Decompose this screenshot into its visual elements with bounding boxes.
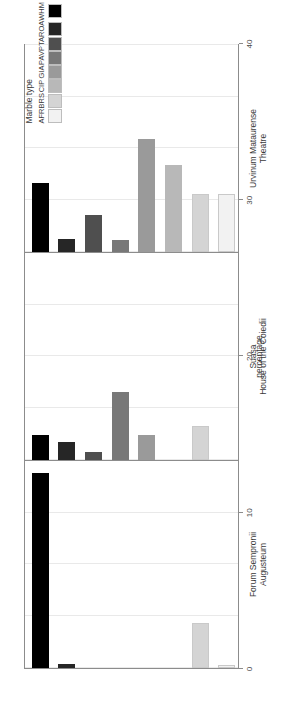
- legend-swatch: [48, 94, 62, 108]
- bar: [58, 239, 75, 252]
- bar: [192, 426, 209, 460]
- legend-item-label: BRS: [37, 93, 46, 108]
- legend-item-label: AFR: [37, 108, 46, 123]
- bar: [85, 452, 102, 460]
- legend-item-label: PTA: [37, 37, 46, 51]
- legend-item[interactable]: WHM: [37, 2, 62, 21]
- x-axis: 010203040: [239, 44, 240, 669]
- axis-title: percentage: [254, 44, 264, 669]
- bar: [85, 215, 102, 252]
- axis-tick: [239, 356, 243, 357]
- legend-swatch: [48, 51, 62, 65]
- facet-panel: SuasaHouse of the Coiedii: [24, 253, 239, 461]
- axis-tick: [239, 199, 243, 200]
- legend-swatch: [48, 37, 62, 51]
- legend: Marble type AFRBRSCIPGIAPAVPTAROAWHM: [24, 2, 62, 123]
- legend-swatch: [48, 109, 62, 123]
- bar: [138, 139, 155, 252]
- bar: [192, 624, 209, 669]
- axis-tick: [239, 43, 243, 44]
- legend-swatch: [48, 4, 62, 18]
- legend-item-label: PAV: [37, 51, 46, 65]
- axis-tick: [239, 512, 243, 513]
- legend-item[interactable]: PAV: [37, 51, 62, 65]
- bar-group: [25, 461, 238, 668]
- legend-item[interactable]: ROA: [37, 21, 62, 37]
- bar: [58, 664, 75, 668]
- axis-tick-label: 0: [245, 667, 254, 671]
- bar: [192, 194, 209, 252]
- bar: [32, 435, 49, 460]
- bar: [112, 392, 129, 460]
- plot-area: Forum SemproniiAugusteumSuasaHouse of th…: [24, 44, 239, 669]
- legend-swatch: [48, 79, 62, 93]
- axis-tick: [239, 668, 243, 669]
- axis-tick-label: 40: [245, 40, 254, 49]
- legend-item[interactable]: CIP: [37, 79, 62, 93]
- bar: [218, 665, 235, 668]
- facet-panel: Forum SemproniiAugusteum: [24, 461, 239, 669]
- bar: [165, 165, 182, 252]
- bar: [218, 194, 235, 252]
- legend-title: Marble type: [24, 79, 34, 123]
- legend-item-label: CIP: [37, 80, 46, 93]
- bar: [112, 240, 129, 252]
- bar-group: [25, 253, 238, 460]
- axis-tick-label: 20: [245, 352, 254, 361]
- legend-swatch: [48, 22, 62, 36]
- bar: [32, 183, 49, 252]
- legend-swatch: [48, 65, 62, 79]
- legend-item[interactable]: PTA: [37, 37, 62, 51]
- axis-tick-label: 30: [245, 196, 254, 205]
- axis-tick-label: 10: [245, 508, 254, 517]
- legend-item-label: GIA: [37, 66, 46, 79]
- legend-item[interactable]: AFR: [37, 108, 62, 123]
- legend-item-label: WHM: [37, 2, 46, 21]
- legend-item[interactable]: BRS: [37, 93, 62, 108]
- legend-item[interactable]: GIA: [37, 65, 62, 79]
- legend-items: AFRBRSCIPGIAPAVPTAROAWHM: [37, 2, 62, 123]
- bar: [58, 442, 75, 460]
- chart-figure: Forum SemproniiAugusteumSuasaHouse of th…: [16, 0, 288, 702]
- bar: [138, 435, 155, 460]
- bar: [32, 473, 49, 668]
- legend-item-label: ROA: [37, 21, 46, 37]
